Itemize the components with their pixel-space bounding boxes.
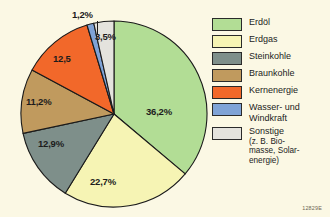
leader-line-wasser-wind xyxy=(97,21,98,34)
legend-swatch-kernenergie xyxy=(212,86,242,99)
legend-item[interactable]: Braunkohle xyxy=(212,68,326,82)
legend-item[interactable]: Sonstige(z. B. Bio- masse, Solar- energi… xyxy=(212,126,326,165)
pie-label-kernenergie: 12,5 xyxy=(53,53,71,64)
legend-item-label: Steinkohle xyxy=(249,51,291,62)
legend-item-label: Kernenergie xyxy=(249,85,298,96)
pie-label-erdgas: 22,7% xyxy=(90,176,116,187)
legend-item[interactable]: Steinkohle xyxy=(212,51,326,65)
pie-label-erdoel: 36,2% xyxy=(146,106,172,117)
legend-swatch-erdoel xyxy=(212,18,242,31)
legend-swatch-wasserwind xyxy=(212,103,242,116)
legend-item-text: Erdöl xyxy=(242,17,270,28)
legend: ErdölErdgasSteinkohleBraunkohleKernenerg… xyxy=(212,17,326,168)
legend-item-text: Braunkohle xyxy=(242,68,295,79)
legend-item-text: Erdgas xyxy=(242,34,278,45)
pie-label-sonstige: 3,5% xyxy=(95,31,116,42)
legend-item-text: Kernenergie xyxy=(242,85,298,96)
legend-item-label: Erdöl xyxy=(249,17,270,28)
legend-swatch-sonstige xyxy=(212,127,242,140)
legend-item[interactable]: Kernenergie xyxy=(212,85,326,99)
pie-chart-figure: 36,2% 22,7% 12,9% 11,2% 12,5 1,2% 3,5% E… xyxy=(0,0,330,217)
legend-item-text: Wasser- und Windkraft xyxy=(242,102,300,123)
legend-swatch-steinkohle xyxy=(212,52,242,65)
legend-item-label: Erdgas xyxy=(249,34,278,45)
pie-chart-plot-area: 36,2% 22,7% 12,9% 11,2% 12,5 1,2% 3,5% xyxy=(18,18,210,210)
legend-item-label: Wasser- und Windkraft xyxy=(249,102,300,123)
legend-item-text: Steinkohle xyxy=(242,51,291,62)
legend-item-label: Sonstige xyxy=(249,126,300,137)
legend-item-label: Braunkohle xyxy=(249,68,295,79)
legend-swatch-erdgas xyxy=(212,35,242,48)
legend-swatch-braunkohle xyxy=(212,69,242,82)
pie-label-wasser-wind: 1,2% xyxy=(72,9,93,20)
source-code-label: 12829E xyxy=(302,205,322,211)
pie-label-braunkohle: 11,2% xyxy=(26,96,51,107)
legend-item-text: Sonstige(z. B. Bio- masse, Solar- energi… xyxy=(242,126,300,165)
pie-label-steinkohle: 12,9% xyxy=(38,138,64,149)
legend-item[interactable]: Erdöl xyxy=(212,17,326,31)
legend-item[interactable]: Wasser- und Windkraft xyxy=(212,102,326,123)
legend-item[interactable]: Erdgas xyxy=(212,34,326,48)
legend-item-sublabel: (z. B. Bio- masse, Solar- energie) xyxy=(249,137,300,166)
